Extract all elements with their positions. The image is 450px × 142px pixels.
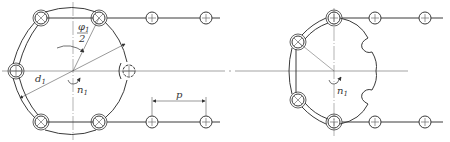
roller-x-bottom-left (33, 114, 49, 130)
rotation-n1-arrow-right (329, 77, 341, 84)
link-bottom-arc (45, 130, 96, 135)
roller-x-upper-left (290, 34, 306, 50)
link-upper-outer (302, 18, 326, 35)
chain-drive-diagram: φ1 2 d1 n1 (0, 0, 450, 142)
roller-x-lower-left (290, 92, 306, 108)
chain-roller (200, 116, 212, 128)
chain-roller (369, 12, 381, 24)
chain-roller (146, 116, 158, 128)
angle-phi-arc (57, 46, 84, 52)
chain-straight-left: p (107, 12, 220, 128)
diameter-label: d1 (35, 73, 46, 86)
link-upper-inner (305, 23, 328, 39)
roller-x-bottom-right (91, 114, 107, 130)
roller-plus-left (8, 63, 24, 79)
pitch-label: p (176, 89, 183, 100)
roller-x-top-left (33, 10, 49, 26)
sprocket-arc-lower-right (105, 80, 127, 118)
roller-plus-top (326, 10, 342, 26)
chain-roller (200, 12, 212, 24)
link-upper-left-inner (19, 25, 38, 65)
chain-roller (419, 116, 431, 128)
link-upper-left-outer (13, 22, 35, 64)
link-lower-outer (302, 107, 326, 124)
radius-line (298, 42, 334, 71)
speed-label-left: n1 (77, 84, 88, 97)
diagram-svg: φ1 2 d1 n1 (0, 0, 450, 142)
link-top-arc (45, 8, 96, 13)
roller-plus-bottom (326, 114, 342, 130)
roller-x-top-right (91, 10, 107, 26)
sprocket-arc-upper-right (105, 22, 127, 62)
chain-roller (419, 12, 431, 24)
link-lower-left-outer (13, 78, 35, 118)
angle-denominator: 2 (78, 33, 85, 44)
link-lower-inner (305, 103, 328, 119)
chain-roller (146, 12, 158, 24)
pitch-dimension: p (152, 89, 206, 116)
right-sprocket: n1 (289, 8, 443, 138)
speed-label-right: n1 (337, 85, 348, 98)
chain-roller (369, 116, 381, 128)
